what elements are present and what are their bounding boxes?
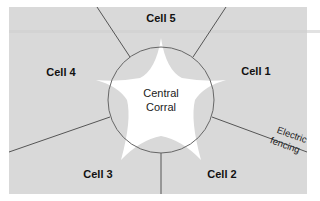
- paddock-diagram: Cell 5 Cell 4 Cell 1 Cell 3 Cell 2 Centr…: [0, 0, 320, 201]
- cell-1-label: Cell 1: [241, 65, 270, 77]
- cell-2-label: Cell 2: [207, 168, 236, 180]
- central-corral-label-line2: Corral: [146, 101, 176, 113]
- cell-3-label: Cell 3: [83, 168, 112, 180]
- cell-5-label: Cell 5: [146, 12, 175, 24]
- scan-band: [9, 30, 320, 33]
- central-corral-label-line1: Central: [143, 87, 178, 99]
- cell-4-label: Cell 4: [46, 66, 76, 78]
